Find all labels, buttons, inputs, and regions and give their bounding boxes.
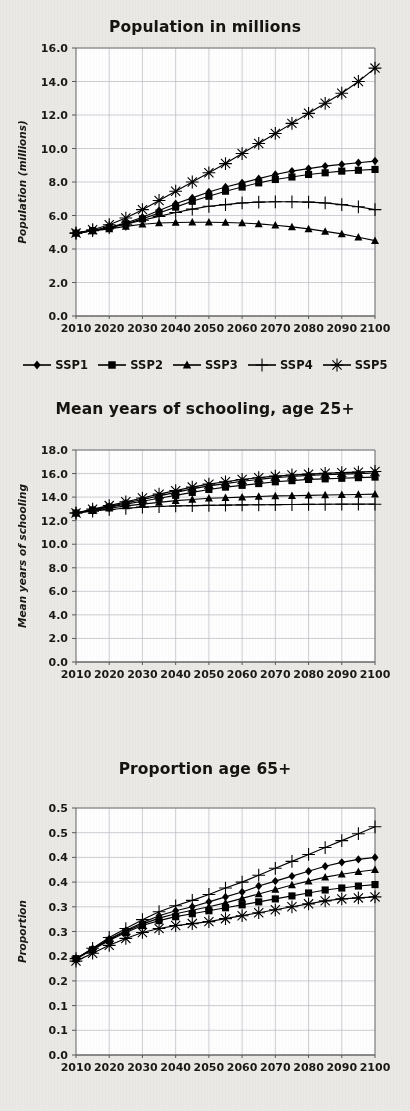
series-marker-SSP2 [288, 173, 295, 180]
series-marker-SSP2 [305, 171, 312, 178]
y-tick-label: 0.2 [49, 975, 69, 988]
series-marker-SSP1 [338, 160, 345, 168]
series-marker-SSP2 [139, 922, 146, 929]
series-marker-SSP2 [338, 168, 345, 175]
series-marker-SSP1 [322, 862, 329, 870]
series-line-SSP2 [76, 885, 375, 959]
series-marker-SSP3 [122, 222, 130, 229]
x-tick-label: 2100 [360, 322, 391, 335]
series-marker-SSP4 [103, 931, 116, 944]
series-marker-SSP3 [222, 899, 230, 906]
y-tick-label: 4.0 [49, 609, 69, 622]
y-axis-label: Population (millions) [16, 120, 28, 243]
series-marker-SSP4 [286, 855, 299, 868]
series-marker-SSP3 [172, 910, 180, 917]
y-tick-label: 2.0 [49, 632, 69, 645]
series-marker-SSP3 [354, 233, 362, 240]
x-tick-label: 2010 [61, 1061, 92, 1074]
x-tick-label: 2070 [260, 322, 291, 335]
series-marker-SSP3 [255, 890, 263, 897]
x-tick-label: 2060 [227, 322, 258, 335]
series-marker-SSP3 [354, 490, 362, 497]
series-marker-SSP3 [72, 229, 80, 236]
series-marker-SSP4 [86, 942, 99, 955]
series-marker-SSP2 [139, 498, 146, 505]
series-marker-SSP5 [352, 75, 365, 88]
x-tick-label: 2040 [160, 1061, 191, 1074]
series-marker-SSP5 [103, 499, 116, 512]
y-tick-label: 10.0 [41, 143, 68, 156]
series-marker-SSP5 [335, 893, 348, 906]
series-marker-SSP5 [70, 955, 83, 968]
y-tick-label: 0.0 [49, 1049, 69, 1062]
series-marker-SSP3 [72, 509, 80, 516]
series-marker-SSP5 [286, 900, 299, 913]
series-marker-SSP2 [288, 892, 295, 899]
x-tick-label: 2050 [194, 1061, 225, 1074]
series-marker-SSP2 [239, 183, 246, 190]
plot-area-schooling [76, 450, 375, 662]
series-marker-SSP1 [205, 482, 212, 490]
series-marker-SSP3 [288, 881, 296, 888]
series-marker-SSP4 [369, 820, 382, 833]
series-marker-SSP3 [155, 219, 163, 226]
series-marker-SSP5 [70, 227, 83, 240]
legend-marker-diamond-icon [22, 358, 52, 372]
series-marker-SSP2 [322, 886, 329, 893]
legend-item-ssp4[interactable]: SSP4 [247, 358, 313, 372]
y-tick-label: 14.0 [41, 76, 68, 89]
series-marker-SSP3 [188, 495, 196, 502]
series-marker-SSP2 [205, 907, 212, 914]
y-tick-label: 0.4 [49, 851, 69, 864]
series-marker-SSP1 [73, 954, 80, 962]
series-line-SSP1 [76, 473, 375, 513]
series-marker-SSP5 [136, 926, 149, 939]
series-marker-SSP5 [302, 107, 315, 120]
series-marker-SSP2 [255, 898, 262, 905]
x-tick-label: 2030 [127, 668, 158, 681]
series-marker-SSP5 [369, 62, 382, 75]
y-tick-label: 6.0 [49, 585, 69, 598]
legend-item-ssp1[interactable]: SSP1 [22, 358, 88, 372]
series-marker-SSP3 [321, 491, 329, 498]
series-marker-SSP4 [352, 498, 365, 511]
series-marker-SSP1 [372, 853, 379, 861]
series-marker-SSP4 [103, 221, 116, 234]
legend-item-ssp3[interactable]: SSP3 [172, 358, 238, 372]
y-tick-label: 8.0 [49, 176, 69, 189]
series-marker-SSP5 [369, 465, 382, 478]
series-marker-SSP4 [302, 498, 315, 511]
series-marker-SSP1 [239, 179, 246, 187]
series-line-SSP5 [76, 897, 375, 961]
series-marker-SSP1 [239, 888, 246, 896]
chart-canvas-proportion65: 0.00.10.10.20.20.30.30.40.40.50.5Proport… [0, 0, 410, 1111]
series-marker-SSP5 [203, 478, 216, 491]
series-marker-SSP3 [155, 914, 163, 921]
x-tick-label: 2020 [94, 1061, 125, 1074]
series-marker-SSP3 [172, 218, 180, 225]
legend-label: SSP5 [355, 358, 388, 372]
series-marker-SSP5 [136, 203, 149, 216]
series-marker-SSP1 [172, 488, 179, 496]
series-marker-SSP3 [288, 491, 296, 498]
series-marker-SSP4 [203, 888, 216, 901]
series-marker-SSP2 [239, 482, 246, 489]
y-tick-label: 0.2 [49, 950, 69, 963]
series-marker-SSP4 [219, 198, 232, 211]
series-marker-SSP1 [355, 469, 362, 477]
series-marker-SSP3 [305, 491, 313, 498]
y-tick-label: 4.0 [49, 243, 69, 256]
x-tick-label: 2070 [260, 1061, 291, 1074]
x-tick-label: 2020 [94, 668, 125, 681]
series-marker-SSP5 [319, 894, 332, 907]
series-marker-SSP2 [122, 220, 129, 227]
series-marker-SSP4 [219, 499, 232, 512]
legend-item-ssp2[interactable]: SSP2 [97, 358, 163, 372]
series-marker-SSP2 [371, 474, 378, 481]
series-line-SSP5 [76, 68, 375, 233]
legend-item-ssp5[interactable]: SSP5 [322, 358, 388, 372]
series-marker-SSP5 [236, 147, 249, 160]
series-marker-SSP3 [321, 227, 329, 234]
series-marker-SSP4 [252, 196, 265, 209]
series-marker-SSP4 [103, 503, 116, 516]
